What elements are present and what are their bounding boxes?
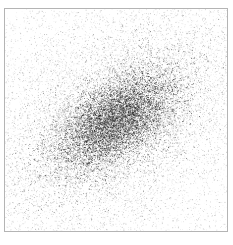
plot-frame	[4, 8, 228, 232]
figure-root	[0, 0, 233, 245]
scatter-plot-canvas	[5, 9, 227, 231]
